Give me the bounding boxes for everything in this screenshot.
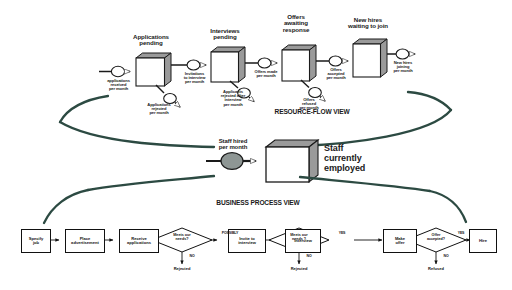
diagram-canvas: Applications pending Interviews pending … bbox=[0, 0, 512, 290]
flow-label-staff-hired-per-month: Staff hired per month bbox=[205, 138, 261, 150]
bp-branch-label-no-1: NO bbox=[184, 254, 200, 258]
flow-new-hires-joining bbox=[387, 49, 415, 59]
brace-business-process-top-left bbox=[88, 176, 214, 190]
flow-label-invitations-to-interview: Invitations to interview per month bbox=[172, 72, 217, 85]
bp-outcome-rejected-1: Rejected bbox=[162, 266, 202, 271]
bp-branch-label-no-2: NO bbox=[301, 254, 317, 258]
flow-applications-received bbox=[99, 66, 130, 76]
stock-label-applications-pending: Applications pending bbox=[120, 34, 182, 47]
brace-business-process-top-right bbox=[300, 177, 430, 191]
flow-staff-hired-per-month bbox=[206, 153, 256, 170]
flow-label-new-hires-joining: New hires joining per month bbox=[382, 61, 424, 74]
flow-invitations-to-interview bbox=[171, 60, 206, 70]
flow-label-applications-received: applications received per month bbox=[96, 79, 141, 92]
stock-label-new-hires-waiting-to-join: New hires waiting to join bbox=[333, 17, 403, 30]
brace-resource-flow-converge-right bbox=[300, 110, 451, 146]
stock-applications-pending bbox=[136, 53, 171, 86]
bp-step-place-advertisement[interactable]: Place advertisement bbox=[65, 229, 105, 253]
stock-staff-currently-employed bbox=[266, 140, 318, 182]
bp-branch-label-possibly: POSSIBLY bbox=[212, 231, 248, 235]
resource-flow-view-title: RESOURCE-FLOW VIEW bbox=[247, 108, 377, 115]
stock-label-staff-currently-employed: Staff currently employed bbox=[324, 143, 414, 173]
stock-label-offers-awaiting-response: Offers awaiting response bbox=[268, 14, 324, 33]
bp-decision-label-meets-our-needs-2: Meets our needs ? bbox=[275, 234, 323, 242]
business-process-view-title: BUSINESS PROCESS VIEW bbox=[188, 199, 328, 206]
bp-step-hire[interactable]: Hire bbox=[469, 229, 497, 253]
flow-label-applications-rejected: Applications rejected per month bbox=[136, 103, 182, 116]
flow-offers-made bbox=[245, 58, 277, 68]
brace-resource-flow-left bbox=[60, 96, 108, 122]
bp-decision-label-meets-our-needs-1: Meets our needs? bbox=[158, 234, 206, 242]
bp-decision-label-offer-accepted: Offer accepted? bbox=[412, 234, 460, 242]
bp-outcome-refused: Refused bbox=[416, 266, 456, 271]
bp-branch-label-no-3: NO bbox=[438, 254, 454, 258]
bp-branch-label-yes-1: YES bbox=[330, 231, 354, 235]
brace-business-process-left bbox=[44, 190, 88, 223]
flow-offers-accepted bbox=[316, 56, 348, 66]
bp-step-specify-job[interactable]: Specify job bbox=[21, 229, 51, 253]
bp-step-receive-applications[interactable]: Receive applications bbox=[119, 229, 159, 253]
brace-resource-flow-converge-left bbox=[60, 122, 214, 147]
bp-branch-label-yes-2: YES bbox=[450, 231, 472, 235]
bp-outcome-rejected-2: Rejected bbox=[279, 266, 319, 271]
brace-resource-flow-right bbox=[408, 92, 451, 110]
stock-label-interviews-pending: Interviews pending bbox=[196, 28, 254, 41]
flow-label-offers-made: Offers made per month bbox=[244, 70, 288, 78]
brace-business-process-right bbox=[430, 191, 466, 222]
flow-label-offers-accepted: Offers accepted per month bbox=[315, 68, 357, 81]
flow-label-applicants-rejected-after-interview: Applicants rejected after interview per … bbox=[209, 90, 257, 107]
